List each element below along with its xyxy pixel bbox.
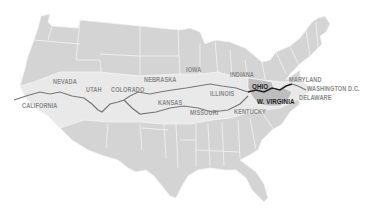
label-kansas: KANSAS [158,101,182,107]
label-w-virginia: W. VIRGINIA [257,99,295,106]
label-iowa: IOWA [186,68,201,74]
label-nevada: NEVADA [53,80,77,86]
label-illinois: ILLINOIS [210,92,234,98]
label-california: CALIFORNIA [22,104,58,110]
label-delaware: DELAWARE [299,96,332,102]
label-ohio: OHIO [252,84,268,91]
label-missouri: MISSOURI [190,111,218,117]
us-map [0,0,376,221]
label-kentucky: KENTUCKY [234,110,266,116]
label-utah: UTAH [86,88,102,94]
label-maryland: MARYLAND [289,78,322,84]
label-washington-dc: WASHINGTON D.C. [307,87,360,93]
label-colorado: COLORADO [111,88,144,94]
label-nebraska: NEBRASKA [144,78,177,84]
label-indiana: INDIANA [230,73,254,79]
